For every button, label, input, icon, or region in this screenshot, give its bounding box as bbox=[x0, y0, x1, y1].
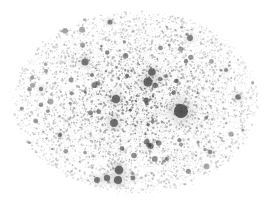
network-graph-svg bbox=[0, 0, 272, 204]
graph-hub-node bbox=[112, 95, 120, 103]
graph-hub-node bbox=[187, 35, 193, 41]
graph-hub-node bbox=[81, 58, 88, 65]
graph-hub-node bbox=[146, 142, 151, 147]
graph-hub-node bbox=[107, 19, 112, 24]
graph-hub-node bbox=[235, 94, 241, 100]
graph-hub-node bbox=[131, 176, 136, 181]
graph-hub-node bbox=[58, 133, 62, 137]
network-graph-canvas bbox=[0, 0, 272, 204]
graph-hub-node bbox=[164, 74, 168, 78]
graph-hub-node bbox=[148, 68, 156, 76]
graph-hub-node bbox=[110, 119, 118, 127]
graph-hub-node bbox=[94, 177, 100, 183]
graph-hub-node bbox=[174, 104, 188, 118]
graph-hub-node bbox=[165, 157, 169, 161]
graph-hub-node bbox=[39, 87, 43, 91]
graph-hub-node bbox=[224, 68, 228, 72]
graph-hub-node bbox=[208, 150, 212, 154]
